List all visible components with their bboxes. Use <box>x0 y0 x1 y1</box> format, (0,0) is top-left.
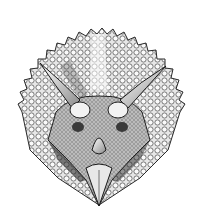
illustration-canvas <box>0 0 198 206</box>
left-eye-ridge <box>70 102 90 118</box>
right-eye <box>116 122 128 132</box>
right-eye-ridge <box>108 102 128 118</box>
left-eye <box>72 122 84 132</box>
triceratops-head-illustration <box>0 0 198 206</box>
